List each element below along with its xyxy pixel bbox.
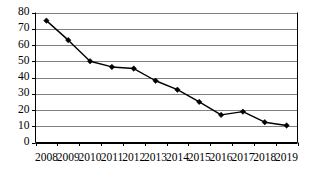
x-tick-label-2010: 2010 <box>79 151 102 163</box>
x-tick-label-2017: 2017 <box>231 151 254 163</box>
y-tick-label-0: 0 <box>24 135 30 147</box>
y-tick-label-30: 30 <box>18 86 30 98</box>
chart-canvas: 01020304050607080 2008200920102011201220… <box>0 0 315 171</box>
x-tick-label-2014: 2014 <box>166 151 189 163</box>
y-tick-label-70: 70 <box>18 21 30 33</box>
y-axis-labels-group: 01020304050607080 <box>18 5 30 147</box>
x-tick-label-2016: 2016 <box>210 151 233 163</box>
x-tick-label-2013: 2013 <box>144 151 167 163</box>
x-axis-labels-group: 2008200920102011201220132014201520162017… <box>35 151 298 163</box>
x-tick-label-2012: 2012 <box>122 151 145 163</box>
y-tick-label-20: 20 <box>18 103 30 115</box>
y-tick-label-10: 10 <box>18 119 30 131</box>
x-tick-label-2009: 2009 <box>57 151 80 163</box>
x-tick-label-2018: 2018 <box>253 151 276 163</box>
y-tick-label-50: 50 <box>18 54 30 66</box>
chart-background <box>0 0 315 171</box>
x-tick-label-2019: 2019 <box>275 151 298 163</box>
x-tick-label-2008: 2008 <box>35 151 58 163</box>
line-chart: 01020304050607080 2008200920102011201220… <box>0 0 315 171</box>
y-tick-label-80: 80 <box>18 5 30 17</box>
y-tick-label-40: 40 <box>18 70 30 82</box>
y-tick-label-60: 60 <box>18 38 30 50</box>
x-tick-label-2011: 2011 <box>101 151 124 163</box>
x-tick-label-2015: 2015 <box>188 151 211 163</box>
